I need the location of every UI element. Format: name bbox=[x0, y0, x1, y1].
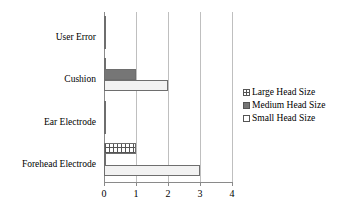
x-tick-label-4: 4 bbox=[222, 188, 242, 199]
category-label-forehead-electrode: Forehead Electrode bbox=[22, 159, 96, 169]
x-tick-0 bbox=[104, 182, 105, 186]
category-label-user-error: User Error bbox=[56, 32, 96, 42]
category-label-ear-electrode: Ear Electrode bbox=[44, 117, 96, 127]
bar-large-head-size bbox=[104, 101, 106, 112]
x-tick-3 bbox=[200, 182, 201, 186]
x-tick-label-2: 2 bbox=[158, 188, 178, 199]
legend-item-small-head-size: Small Head Size bbox=[243, 112, 325, 125]
plot-area bbox=[104, 12, 232, 182]
gridline-4 bbox=[232, 12, 233, 182]
bar-medium-head-size bbox=[104, 27, 106, 38]
bar-small-head-size bbox=[104, 80, 168, 91]
bar-small-head-size bbox=[104, 165, 200, 176]
bar-large-head-size bbox=[104, 16, 106, 27]
bar-group bbox=[104, 101, 232, 137]
legend-swatch-icon bbox=[243, 89, 250, 96]
x-tick-label-0: 0 bbox=[94, 188, 114, 199]
legend-swatch-icon bbox=[243, 102, 250, 109]
legend-label: Medium Head Size bbox=[252, 99, 325, 112]
x-tick-4 bbox=[232, 182, 233, 186]
chart-legend: Large Head Size Medium Head Size Small H… bbox=[243, 86, 325, 125]
bar-small-head-size bbox=[104, 38, 106, 49]
x-tick-label-1: 1 bbox=[126, 188, 146, 199]
bar-medium-head-size bbox=[104, 69, 136, 80]
bar-large-head-size bbox=[104, 143, 136, 154]
legend-label: Small Head Size bbox=[252, 112, 315, 125]
legend-item-medium-head-size: Medium Head Size bbox=[243, 99, 325, 112]
bar-medium-head-size bbox=[104, 154, 106, 165]
bar-group bbox=[104, 58, 232, 94]
legend-label: Large Head Size bbox=[252, 86, 315, 99]
bar-group bbox=[104, 143, 232, 179]
x-tick-2 bbox=[168, 182, 169, 186]
x-tick-label-3: 3 bbox=[190, 188, 210, 199]
bar-large-head-size bbox=[104, 58, 106, 69]
bar-chart: User Error Cushion Ear Electrode Forehea… bbox=[0, 0, 360, 215]
x-tick-1 bbox=[136, 182, 137, 186]
bar-small-head-size bbox=[104, 123, 106, 134]
bar-group bbox=[104, 16, 232, 52]
legend-swatch-icon bbox=[243, 115, 250, 122]
category-label-cushion: Cushion bbox=[64, 74, 96, 84]
bar-medium-head-size bbox=[104, 112, 106, 123]
legend-item-large-head-size: Large Head Size bbox=[243, 86, 325, 99]
